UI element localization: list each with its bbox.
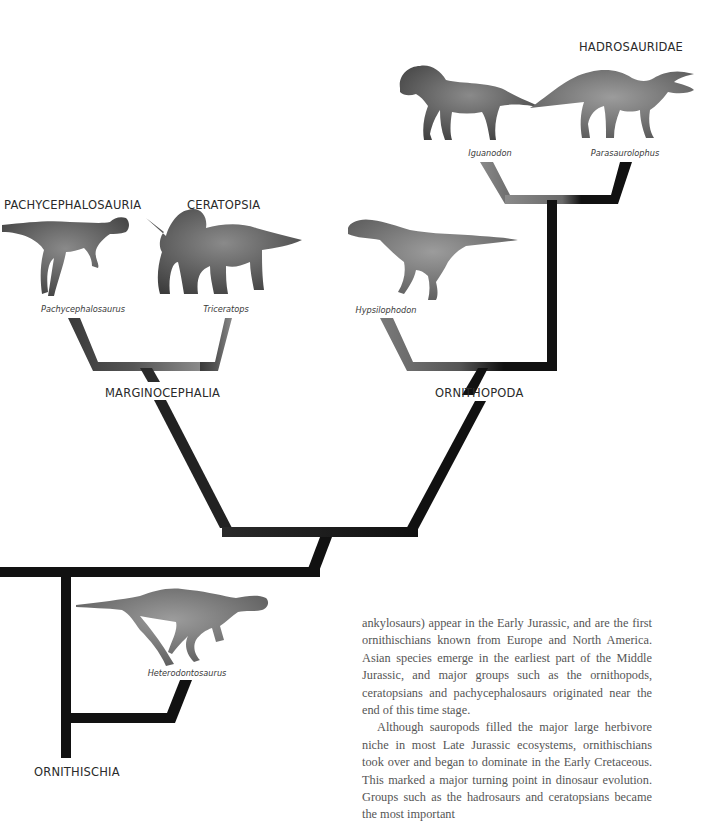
branch-marginocephalia bbox=[68, 318, 232, 528]
iguanodon-illustration bbox=[400, 66, 540, 140]
clade-label-pachycephalosauria: PACHYCEPHALOSAURIA bbox=[4, 198, 141, 212]
clade-label-ornithischia: ORNITHISCHIA bbox=[34, 765, 120, 779]
species-label-heterodontosaurus: Heterodontosaurus bbox=[148, 668, 227, 678]
branch-ornithopoda bbox=[380, 318, 557, 533]
heterodontosaurus-illustration bbox=[76, 588, 268, 666]
species-label-hypsilophodon: Hypsilophodon bbox=[356, 305, 417, 315]
clade-label-ceratopsia: CERATOPSIA bbox=[187, 198, 260, 212]
branch-cerapoda bbox=[222, 527, 418, 574]
species-label-pachycephalosaurus: Pachycephalosaurus bbox=[41, 304, 125, 314]
clade-label-marginocephalia: MARGINOCEPHALIA bbox=[105, 386, 220, 400]
body-text: ankylosaurs) appear in the Early Jurassi… bbox=[362, 615, 652, 824]
clade-label-ornithopoda: ORNITHOPODA bbox=[435, 386, 523, 400]
hypsilophodon-illustration bbox=[348, 219, 518, 300]
body-paragraph-2: Although sauropods filled the major larg… bbox=[362, 719, 652, 823]
species-label-parasaurolophus: Parasaurolophus bbox=[591, 148, 659, 158]
body-paragraph-1: ankylosaurs) appear in the Early Jurassi… bbox=[362, 615, 652, 719]
species-label-iguanodon: Iguanodon bbox=[468, 148, 511, 158]
pachycephalosaurus-illustration bbox=[2, 217, 129, 296]
triceratops-illustration bbox=[146, 209, 302, 294]
parasaurolophus-illustration bbox=[530, 70, 694, 138]
clade-label-hadrosauridae: HADROSAURIDAE bbox=[579, 40, 683, 54]
species-label-triceratops: Triceratops bbox=[203, 304, 249, 314]
branch-hadrosauridae bbox=[480, 162, 632, 368]
